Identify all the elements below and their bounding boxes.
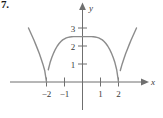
y-tick-label-2: 2 [71, 42, 76, 52]
x-axis-label: x [150, 77, 155, 87]
y-tick-label-3: 3 [71, 24, 76, 34]
graph-plot: x y −2 −1 1 2 1 2 3 [0, 0, 163, 118]
x-axis-arrow-icon [141, 79, 149, 86]
figure-container: 7. x y −2 −1 1 2 1 2 3 [0, 0, 163, 118]
x-tick-label-2: 2 [116, 89, 121, 99]
y-axis-arrow-icon [79, 3, 86, 11]
x-tick-label--1: −1 [60, 89, 70, 99]
y-tick-label-1: 1 [71, 60, 76, 70]
x-tick-label-1: 1 [98, 89, 103, 99]
x-tick-label--2: −2 [42, 89, 52, 99]
y-axis-label: y [88, 3, 93, 13]
